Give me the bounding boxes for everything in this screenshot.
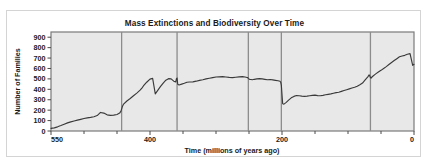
y-tick-label-400: 400 xyxy=(34,85,46,94)
y-tick-label-500: 500 xyxy=(34,74,46,83)
y-tick-label-900: 900 xyxy=(34,33,46,42)
y-tick-label-300: 300 xyxy=(34,95,46,104)
chart-card: Mass Extinctions and Biodiversity Over T… xyxy=(6,10,421,157)
y-tick-label-0: 0 xyxy=(42,127,46,136)
x-tick-label-400: 400 xyxy=(144,135,156,144)
y-tick-label-200: 200 xyxy=(34,106,46,115)
plot-container: 0100200300400500600700800900 5504002000 … xyxy=(7,11,422,158)
y-tick-label-700: 700 xyxy=(34,54,46,63)
y-tick-label-600: 600 xyxy=(34,64,46,73)
y-tick-label-100: 100 xyxy=(34,116,46,125)
chart-svg: 0100200300400500600700800900 5504002000 … xyxy=(7,11,422,158)
x-axis-ticks: 5504002000 xyxy=(51,131,414,144)
chart-figure: Mass Extinctions and Biodiversity Over T… xyxy=(0,0,427,167)
plot-background xyxy=(51,32,414,131)
y-axis-ticks: 0100200300400500600700800900 xyxy=(34,33,52,136)
x-tick-label-550: 550 xyxy=(51,135,63,144)
y-tick-label-800: 800 xyxy=(34,43,46,52)
y-axis-label: Number of Families xyxy=(13,48,22,115)
x-tick-label-200: 200 xyxy=(276,135,288,144)
x-tick-label-0: 0 xyxy=(410,135,414,144)
x-axis-label: Time (millions of years ago) xyxy=(185,146,281,155)
